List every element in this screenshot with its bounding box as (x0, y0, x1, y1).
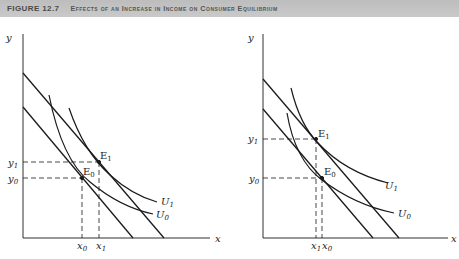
right-labels: y x y1 y0 x1 x0 E1 E0 U1 U0 (247, 32, 457, 253)
left-x0-label: x0 (77, 240, 88, 253)
right-u1-label: U1 (385, 180, 398, 193)
left-panel (23, 34, 210, 238)
left-u0-label: U0 (156, 209, 169, 222)
right-y1-label: y1 (247, 133, 258, 146)
left-y0-label: y0 (7, 173, 19, 186)
right-guides (263, 139, 322, 238)
left-budget-line-high (23, 73, 164, 238)
figure-charts: y x y1 y0 x0 x1 E1 E0 U1 U0 y x y1 y0 x1… (0, 0, 459, 259)
right-x0-label: x0 (322, 240, 333, 253)
right-e1-label: E1 (318, 128, 330, 141)
left-x1-label: x1 (96, 240, 106, 253)
left-budget-line-low (23, 107, 133, 238)
left-y-axis-label: y (5, 32, 12, 43)
right-budget-line-high (263, 79, 399, 238)
left-u1-label: U1 (161, 196, 174, 209)
left-labels: y x y1 y0 x0 x1 E1 E0 U1 U0 (5, 32, 221, 253)
right-y0-label: y0 (248, 173, 260, 186)
right-indifference-curve-u0 (287, 113, 394, 213)
right-y-axis-label: y (247, 32, 254, 43)
right-x-axis-label: x (451, 233, 457, 244)
right-u0-label: U0 (398, 208, 411, 221)
right-panel (263, 34, 448, 238)
right-e0-label: E0 (324, 166, 336, 179)
left-y1-label: y1 (7, 157, 18, 170)
right-x1-label: x1 (311, 240, 321, 253)
left-e1-label: E1 (100, 150, 112, 163)
left-x-axis-label: x (215, 233, 221, 244)
